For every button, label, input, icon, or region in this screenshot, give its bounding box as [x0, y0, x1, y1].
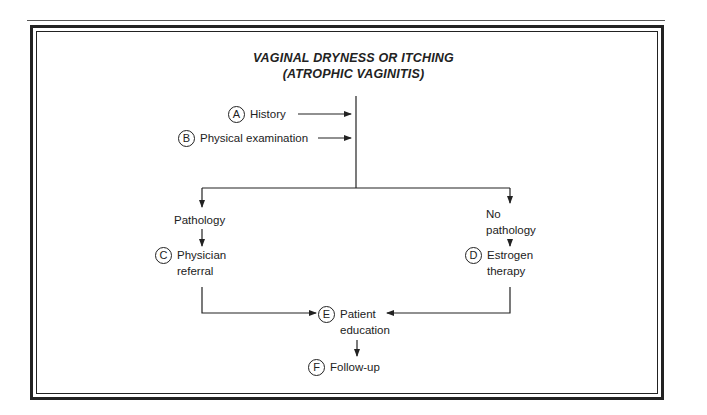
node-physician-referral: CPhysicianreferral: [155, 247, 226, 279]
patient-education-line1: Patient: [340, 306, 390, 322]
node-no-pathology: Nopathology: [486, 206, 536, 238]
node-pathology: Pathology: [174, 212, 225, 228]
node-history: AHistory: [228, 106, 286, 123]
badge-e: E: [318, 306, 335, 323]
badge-b: B: [178, 130, 195, 147]
estrogen-therapy-line1: Estrogen: [487, 247, 533, 263]
estrogen-therapy-line2: therapy: [487, 263, 533, 279]
follow-up-label: Follow-up: [330, 361, 380, 373]
no-pathology-line2: pathology: [486, 222, 536, 238]
node-physical-examination: BPhysical examination: [178, 130, 308, 147]
physical-exam-label: Physical examination: [200, 132, 308, 144]
badge-d: D: [465, 247, 482, 264]
connector-lines: [0, 0, 707, 415]
node-follow-up: FFollow-up: [308, 359, 380, 376]
history-label: History: [250, 108, 286, 120]
node-estrogen-therapy: DEstrogentherapy: [465, 247, 533, 279]
node-patient-education: EPatienteducation: [318, 306, 390, 338]
physician-referral-line2: referral: [177, 263, 226, 279]
pathology-label: Pathology: [174, 214, 225, 226]
badge-f: F: [308, 359, 325, 376]
patient-education-line2: education: [340, 322, 390, 338]
no-pathology-line1: No: [486, 206, 536, 222]
physician-referral-line1: Physician: [177, 247, 226, 263]
badge-c: C: [155, 247, 172, 264]
badge-a: A: [228, 106, 245, 123]
